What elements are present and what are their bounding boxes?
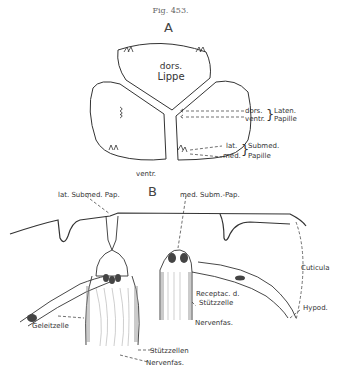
- annotation-hypod: Hypod.: [303, 304, 328, 312]
- annotation-nervenfas-1: Nervenfas.: [195, 319, 233, 327]
- annotation-papille-2: Papille: [248, 152, 271, 160]
- panel-b-label: B: [148, 184, 157, 199]
- annotation-receptac-line2: Stützzelle: [199, 299, 233, 307]
- annotation-dors: dors.: [245, 107, 262, 115]
- annotation-lat-submed-pap: lat. Submed. Pap.: [58, 191, 120, 199]
- dorsal-lip-label-line2: Lippe: [148, 71, 194, 83]
- annotation-geleitzelle: Geleitzelle: [32, 322, 69, 330]
- annotation-med-subm-pap: med. Subm.-Pap.: [180, 191, 240, 199]
- annotation-laten: Laten.: [274, 107, 296, 115]
- cuticle-outline: [10, 213, 306, 242]
- ventral-label: ventr.: [136, 170, 156, 178]
- annotation-submed: Submed.: [248, 142, 279, 150]
- annotation-ventr: ventr.: [245, 115, 265, 123]
- annotation-cuticula: Cuticula: [301, 264, 330, 272]
- annotation-stuetzzellen: Stützzellen: [150, 347, 189, 355]
- annotation-papille-1: Papille: [274, 115, 297, 123]
- diagram-drawing: [0, 0, 341, 373]
- left-lip-outline: [90, 82, 166, 160]
- annotation-receptac-line1: Receptac. d.: [196, 290, 239, 298]
- annotation-lat: lat.: [226, 142, 237, 150]
- annotation-med: med.: [223, 152, 241, 160]
- annotation-nervenfas-2: Nervenfas.: [146, 359, 184, 367]
- right-lip-outline: [176, 81, 251, 160]
